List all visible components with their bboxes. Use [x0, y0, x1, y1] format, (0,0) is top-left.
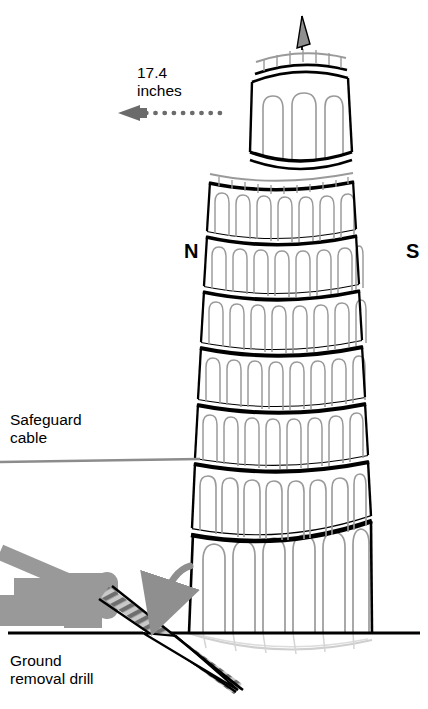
- pisa-tower-diagram: [0, 0, 428, 709]
- measurement-arrow: [118, 105, 225, 121]
- compass-south-label: S: [406, 240, 419, 264]
- tower-belfry: [230, 68, 352, 169]
- leaning-tower: [189, 16, 372, 654]
- illustration-canvas: 17.4 inches N S Safeguard cable Ground r…: [0, 0, 428, 709]
- measurement-label: 17.4 inches: [137, 64, 182, 101]
- tower-ground-shadow: [188, 633, 372, 649]
- safeguard-cable[interactable]: [0, 459, 200, 462]
- safeguard-cable-label: Safeguard cable: [10, 411, 82, 448]
- tilt-correction-arrow: [163, 566, 190, 601]
- compass-north-label: N: [184, 240, 198, 264]
- tower-flag: [297, 16, 310, 50]
- ground-removal-drill-label: Ground removal drill: [10, 652, 94, 689]
